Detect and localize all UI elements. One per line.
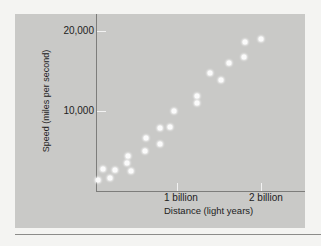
data-point [168,125,173,130]
data-point [226,61,231,66]
data-point [126,154,131,159]
data-point [241,55,246,60]
data-point [158,125,163,130]
x-tick-label-1-billion: 1 billion [164,192,198,203]
divider [15,234,321,235]
y-tick-label-10000: 10,000 [44,105,94,116]
data-point [194,93,199,98]
y-tick-label-20000: 20,000 [44,25,94,36]
data-point [242,40,247,45]
data-point [95,178,100,183]
data-point [172,109,177,114]
y-tick-20000 [97,31,106,32]
x-tick-1-billion [177,183,178,191]
y-axis [96,14,97,191]
data-point [108,176,113,181]
data-point [142,149,147,154]
data-point [112,168,117,173]
data-point [125,161,130,166]
data-point [143,136,148,141]
data-point [219,77,224,82]
y-tick-10000 [97,111,106,112]
data-point [101,166,106,171]
data-point [194,101,199,106]
data-point [207,71,212,76]
x-axis-title: Distance (light years) [164,205,253,216]
x-tick-2-billion [261,183,262,191]
data-point [158,141,163,146]
data-point [129,169,134,174]
data-point [259,37,264,42]
x-tick-label-2-billion: 2 billion [249,192,283,203]
y-axis-title: Speed (miles per second) [41,31,51,171]
